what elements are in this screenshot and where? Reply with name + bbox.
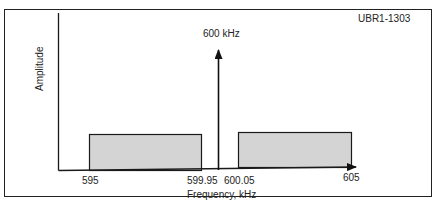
tick-label-595: 595 (82, 176, 99, 186)
tick-label-605: 605 (343, 173, 360, 183)
y-axis-label: Amplitude (35, 47, 45, 91)
lower-sideband-rect (90, 135, 202, 171)
upper-sideband-rect (239, 133, 352, 168)
tick-label-599-95: 599.95 (187, 176, 218, 186)
carrier-label: 600 kHz (203, 29, 240, 39)
figure-id-label: UBR1-1303 (358, 14, 410, 24)
tick-label-600-05: 600.05 (224, 176, 255, 186)
x-axis-label: Frequency, kHz (187, 190, 256, 200)
